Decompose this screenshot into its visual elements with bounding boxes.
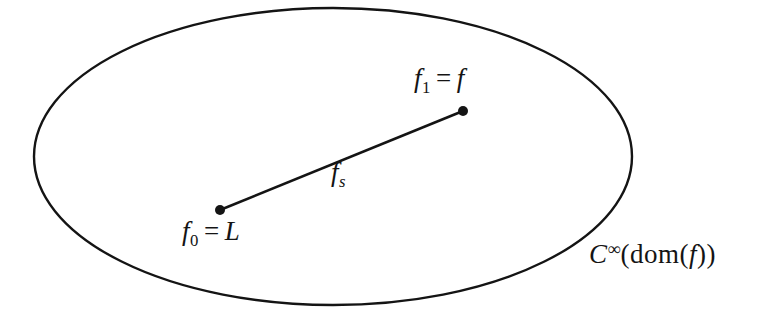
label-f1-subscript: 1 bbox=[422, 78, 431, 97]
label-f0-equals: = bbox=[204, 216, 220, 246]
label-f0-base: f bbox=[182, 216, 190, 246]
label-f0-value: L bbox=[225, 216, 241, 246]
infinity-symbol: ∞ bbox=[608, 239, 621, 259]
point-f1-dot bbox=[458, 106, 468, 116]
label-f1-value: f bbox=[457, 63, 465, 93]
label-fs-base: f bbox=[331, 157, 339, 187]
label-f1-equals: = bbox=[436, 63, 452, 93]
label-fs: fs bbox=[331, 158, 346, 188]
diagram-shapes bbox=[0, 0, 773, 321]
label-space-close: )) bbox=[697, 239, 716, 269]
label-space-dom-open: (dom( bbox=[621, 239, 689, 269]
label-space-arg: f bbox=[689, 239, 697, 269]
label-f1-base: f bbox=[414, 63, 422, 93]
label-f1: f1=f bbox=[414, 64, 465, 94]
label-f0: f0=L bbox=[182, 217, 240, 247]
label-f0-subscript: 0 bbox=[190, 231, 199, 250]
point-f0-dot bbox=[215, 205, 225, 215]
label-space-c: C bbox=[589, 239, 608, 269]
label-function-space: C∞(dom(f)) bbox=[589, 240, 716, 270]
label-fs-subscript: s bbox=[339, 172, 346, 191]
homotopy-diagram: f1=f f0=L fs C∞(dom(f)) bbox=[0, 0, 773, 321]
